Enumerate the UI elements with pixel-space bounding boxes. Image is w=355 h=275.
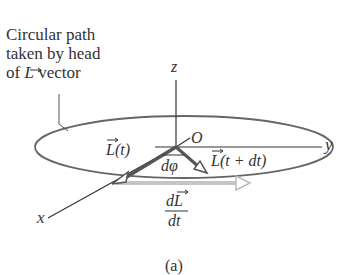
origin-tick: [176, 138, 190, 147]
dL-dt-arrowhead: [236, 176, 250, 190]
figure-label: (a): [165, 257, 183, 275]
y-axis-label: y: [325, 135, 333, 155]
dphi-label: dφ: [161, 157, 178, 175]
L-t-label: L(t): [106, 141, 130, 159]
L-t-dt-label: L(t + dt): [211, 152, 266, 170]
z-axis-label: z: [171, 58, 177, 76]
caption-label: Circular path taken by head of L vector: [6, 25, 100, 82]
dL-denominator: dt: [168, 212, 180, 230]
L-t-dt-vector: [176, 147, 199, 167]
caption-leader-line: [59, 94, 68, 131]
x-axis-label: x: [37, 208, 45, 228]
dL-numerator: dL: [166, 192, 183, 210]
origin-label: O: [191, 129, 203, 147]
